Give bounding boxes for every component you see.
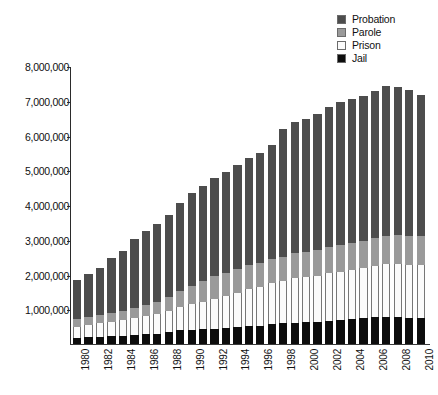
bar-segment-parole — [84, 317, 92, 325]
bar-segment-parole — [279, 257, 287, 281]
legend-label-jail: Jail — [352, 53, 367, 64]
bar-column — [188, 193, 196, 344]
legend-swatch-prison — [337, 41, 346, 50]
bar-segment-jail — [245, 326, 253, 344]
bar-segment-prison — [165, 311, 173, 332]
bar-column — [107, 258, 115, 344]
bar-segment-parole — [325, 247, 333, 273]
bar-segment-prison — [107, 322, 115, 337]
bar-segment-parole — [142, 305, 150, 316]
legend-label-probation: Probation — [352, 14, 395, 25]
bar-segment-probation — [405, 90, 413, 236]
bar-segment-probation — [245, 158, 253, 265]
bar-segment-parole — [130, 308, 138, 318]
bar-segment-jail — [348, 319, 356, 344]
bar-segment-parole — [210, 276, 218, 299]
bar-segment-probation — [119, 251, 127, 311]
legend-swatch-probation — [337, 15, 346, 24]
bar-segment-probation — [382, 86, 390, 235]
bar-column — [325, 107, 333, 344]
bar-segment-probation — [302, 119, 310, 252]
legend-item-parole: Parole — [337, 26, 432, 39]
bar-column — [199, 186, 207, 344]
bar-column — [279, 129, 287, 344]
bar-segment-probation — [153, 224, 161, 302]
bar-column — [348, 99, 356, 344]
bar-segment-jail — [73, 338, 81, 344]
bar-segment-jail — [222, 328, 230, 344]
bar-segment-prison — [96, 323, 104, 337]
bar-column — [302, 119, 310, 344]
bar-segment-probation — [359, 96, 367, 241]
bar-segment-prison — [394, 264, 402, 317]
bar-segment-jail — [382, 317, 390, 344]
legend-label-prison: Prison — [352, 40, 381, 51]
bar-segment-probation — [233, 165, 241, 269]
legend-swatch-jail — [337, 54, 346, 63]
bar-column — [222, 172, 230, 344]
bar-segment-parole — [302, 252, 310, 277]
x-tick-label: 2000 — [310, 349, 320, 370]
bar-segment-jail — [291, 323, 299, 344]
bar-segment-prison — [188, 304, 196, 330]
bar-segment-jail — [325, 321, 333, 344]
bar-segment-probation — [417, 95, 425, 236]
x-tick-label: 2002 — [333, 349, 343, 370]
bar-segment-parole — [119, 311, 127, 320]
x-tick-label: 1988 — [173, 349, 183, 370]
bar-segment-prison — [325, 273, 333, 321]
x-tick-label: 1998 — [287, 349, 297, 370]
bar-segment-probation — [73, 280, 81, 319]
bar-segment-parole — [222, 273, 230, 296]
bar-segment-prison — [84, 325, 92, 338]
bar-column — [142, 231, 150, 344]
stacked-bar-chart: Probation Parole Prison Jail 1,000,0002,… — [0, 0, 438, 395]
bar-column — [153, 224, 161, 344]
bar-segment-parole — [176, 291, 184, 307]
bar-segment-parole — [73, 319, 81, 327]
legend-label-parole: Parole — [352, 27, 381, 38]
bar-segment-prison — [371, 266, 379, 318]
bar-segment-jail — [279, 323, 287, 344]
bar-segment-probation — [210, 178, 218, 276]
bar-segment-prison — [233, 293, 241, 327]
bar-segment-jail — [119, 336, 127, 344]
bar-segment-prison — [405, 265, 413, 318]
legend-item-jail: Jail — [337, 52, 432, 65]
bar-segment-jail — [107, 336, 115, 344]
x-axis-labels: 1980198219841986198819901992199419961998… — [71, 349, 431, 395]
bar-segment-probation — [268, 145, 276, 260]
x-tick-label: 1986 — [150, 349, 160, 370]
bar-column — [210, 178, 218, 344]
bar-series-container — [71, 67, 430, 344]
bar-segment-parole — [359, 241, 367, 268]
bar-column — [371, 91, 379, 344]
bar-column — [382, 86, 390, 344]
bar-segment-jail — [188, 330, 196, 344]
x-tick-label: 1992 — [219, 349, 229, 370]
bar-segment-probation — [165, 215, 173, 297]
bar-segment-jail — [256, 326, 264, 344]
bar-segment-probation — [222, 172, 230, 273]
bar-column — [336, 102, 344, 344]
bar-segment-prison — [153, 314, 161, 334]
bar-column — [405, 90, 413, 344]
bar-column — [96, 268, 104, 344]
bar-segment-probation — [348, 99, 356, 243]
bar-column — [359, 96, 367, 344]
bar-segment-parole — [107, 313, 115, 322]
bar-segment-probation — [291, 122, 299, 253]
bar-column — [130, 239, 138, 344]
x-tick-label: 2004 — [356, 349, 366, 370]
bar-segment-probation — [371, 91, 379, 238]
bar-segment-probation — [336, 102, 344, 245]
x-tick-label: 2006 — [379, 349, 389, 370]
bar-segment-probation — [130, 239, 138, 307]
x-tick-label: 1996 — [264, 349, 274, 370]
bar-segment-probation — [313, 114, 321, 251]
bar-segment-parole — [188, 286, 196, 304]
bar-segment-parole — [382, 236, 390, 265]
bar-segment-probation — [256, 153, 264, 263]
bar-segment-probation — [279, 129, 287, 257]
bar-segment-prison — [142, 316, 150, 334]
